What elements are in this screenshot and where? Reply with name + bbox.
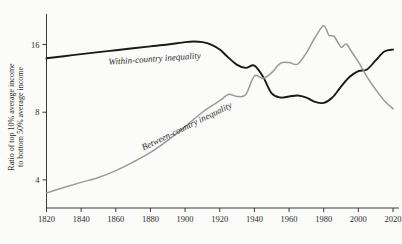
x-tick-label: 1840 xyxy=(73,214,90,224)
x-tick-label: 2000 xyxy=(350,214,367,224)
y-tick-label: 4 xyxy=(35,175,40,185)
x-tick-label: 1860 xyxy=(107,214,124,224)
x-tick-label: 1820 xyxy=(38,214,55,224)
y-axis-title-line-1: Ratio of top 10% average income xyxy=(7,63,16,171)
inequality-line-chart: Ratio of top 10% average incometo bottom… xyxy=(0,0,402,244)
chart-page: Ratio of top 10% average incometo bottom… xyxy=(0,0,402,244)
x-tick-label: 1880 xyxy=(142,214,159,224)
series-label-2: Between-country inequality xyxy=(140,100,234,152)
series-label-1: Within-country inequality xyxy=(108,50,201,66)
x-axis-ticks: 1820184018601880190019201940196019802000… xyxy=(38,208,402,224)
series-inline-labels: Within-country inequalityBetween-country… xyxy=(108,50,233,152)
x-tick-label: 1960 xyxy=(281,214,298,224)
y-axis-ticks: 4816 xyxy=(31,40,47,185)
y-axis-title: Ratio of top 10% average incometo bottom… xyxy=(7,63,25,171)
x-tick-label: 1980 xyxy=(315,214,332,224)
y-axis-title-line-2: to bottom 50% average income xyxy=(16,67,25,167)
x-tick-label: 1920 xyxy=(211,214,228,224)
x-tick-label: 1940 xyxy=(246,214,263,224)
series-line-1 xyxy=(47,42,394,104)
y-tick-label: 8 xyxy=(35,107,39,117)
y-tick-label: 16 xyxy=(31,40,40,50)
x-tick-label: 1900 xyxy=(177,214,194,224)
x-tick-label: 2020 xyxy=(385,214,402,224)
